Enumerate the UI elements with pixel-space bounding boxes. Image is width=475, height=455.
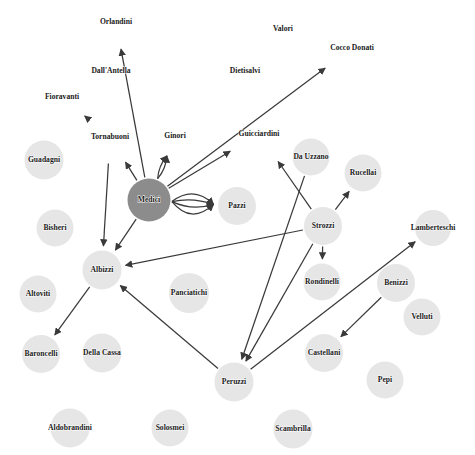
edge-albizzi-to-baroncelli (55, 287, 90, 335)
node-label-albizzi: Albizzi (91, 265, 114, 274)
node-altoviti[interactable]: Altoviti (20, 276, 57, 313)
node-label-dellacassa: Della Cassa (83, 348, 121, 357)
node-label-panciatichi: Panciatichi (171, 288, 207, 297)
node-dauzzano[interactable]: Da Uzzano (293, 139, 330, 176)
node-label-fioravanti: Fioravanti (45, 92, 79, 101)
node-bisheri[interactable]: Bisheri (37, 210, 74, 247)
node-label-bisheri: Bisheri (43, 223, 66, 232)
node-label-velluti: Velluti (411, 312, 432, 321)
edge-tornabuoni-to-albizzi (103, 163, 108, 246)
edge-medici-to-guicciardini (169, 151, 231, 188)
node-lamberteschi[interactable]: Lamberteschi (411, 210, 456, 246)
node-label-benizzi: Benizzi (384, 278, 408, 287)
node-label-rucellai: Rucellai (350, 168, 377, 177)
node-dallantella[interactable]: Dall'Antella (91, 66, 130, 75)
node-valori[interactable]: Valori (273, 24, 293, 33)
node-ginori[interactable]: Ginori (164, 131, 186, 140)
node-aldobrandini[interactable]: Aldobrandini (48, 409, 92, 448)
node-benizzi[interactable]: Benizzi (377, 264, 415, 302)
node-label-dauzzano: Da Uzzano (293, 152, 328, 161)
node-peruzzi[interactable]: Peruzzi (215, 363, 254, 402)
node-label-rondinelli: Rondinelli (305, 277, 339, 286)
edge-medici-to-ginori (158, 156, 167, 179)
node-orlandini[interactable]: Orlandini (100, 17, 132, 26)
edge-strozzi-to-rucellai (335, 191, 349, 209)
node-rucellai[interactable]: Rucellai (345, 155, 382, 192)
node-label-ginori: Ginori (164, 131, 186, 140)
node-label-castellani: Castellani (308, 348, 341, 357)
node-guicciardini[interactable]: Guicciardini (239, 129, 280, 138)
edge-benizzi-to-castellani (341, 297, 381, 336)
node-strozzi[interactable]: Strozzi (304, 207, 342, 245)
node-label-medici: Medici (138, 195, 160, 204)
edge-medici-to-ginori (158, 156, 167, 179)
node-guadagni[interactable]: Guadagni (25, 141, 64, 180)
node-scambrilla[interactable]: Scambrilla (274, 410, 313, 449)
edge-tornabuoni-to-fioravanti (85, 116, 90, 120)
network-diagram: OrlandiniValoriCocco DonatiDall'AntellaD… (0, 0, 475, 455)
node-label-dietisalvi: Dietisalvi (230, 66, 260, 75)
edge-medici-to-albizzi (115, 219, 136, 250)
node-label-guicciardini: Guicciardini (239, 129, 280, 138)
node-label-valori: Valori (273, 24, 293, 33)
node-albizzi[interactable]: Albizzi (83, 251, 122, 290)
node-tornabuoni[interactable]: Tornabuoni (91, 132, 129, 141)
node-label-aldobrandini: Aldobrandini (48, 423, 92, 432)
node-solosmei[interactable]: Solosmei (152, 410, 189, 447)
node-medici[interactable]: Medici (128, 179, 171, 222)
node-label-peruzzi: Peruzzi (222, 377, 246, 386)
node-label-coccodonati: Cocco Donati (330, 43, 374, 52)
node-label-altoviti: Altoviti (26, 289, 50, 298)
node-label-scambrilla: Scambrilla (275, 424, 311, 433)
node-dellacassa[interactable]: Della Cassa (83, 334, 122, 373)
node-baroncelli[interactable]: Baroncelli (22, 335, 60, 373)
node-label-tornabuoni: Tornabuoni (91, 132, 129, 141)
network-canvas: OrlandiniValoriCocco DonatiDall'AntellaD… (0, 0, 475, 455)
node-castellani[interactable]: Castellani (305, 334, 343, 372)
node-fioravanti[interactable]: Fioravanti (45, 92, 79, 101)
node-label-orlandini: Orlandini (100, 17, 132, 26)
node-label-baroncelli: Baroncelli (24, 349, 57, 358)
node-label-solosmei: Solosmei (156, 423, 185, 432)
node-label-lamberteschi: Lamberteschi (411, 223, 456, 232)
edge-medici-to-tornabuoni (126, 162, 137, 180)
node-label-guadagni: Guadagni (28, 155, 60, 164)
node-label-strozzi: Strozzi (312, 221, 335, 230)
edge-strozzi-to-peruzzi (246, 244, 313, 361)
node-pepi[interactable]: Pepi (367, 362, 404, 399)
node-pazzi[interactable]: Pazzi (218, 187, 256, 225)
node-label-pepi: Pepi (378, 375, 392, 384)
node-velluti[interactable]: Velluti (404, 299, 441, 336)
node-label-pazzi: Pazzi (228, 201, 245, 210)
node-rondinelli[interactable]: Rondinelli (304, 264, 341, 301)
node-label-dallantella: Dall'Antella (91, 66, 130, 75)
node-coccodonati[interactable]: Cocco Donati (330, 43, 374, 52)
node-layer: OrlandiniValoriCocco DonatiDall'AntellaD… (20, 17, 456, 448)
node-panciatichi[interactable]: Panciatichi (169, 273, 209, 313)
node-dietisalvi[interactable]: Dietisalvi (230, 66, 260, 75)
